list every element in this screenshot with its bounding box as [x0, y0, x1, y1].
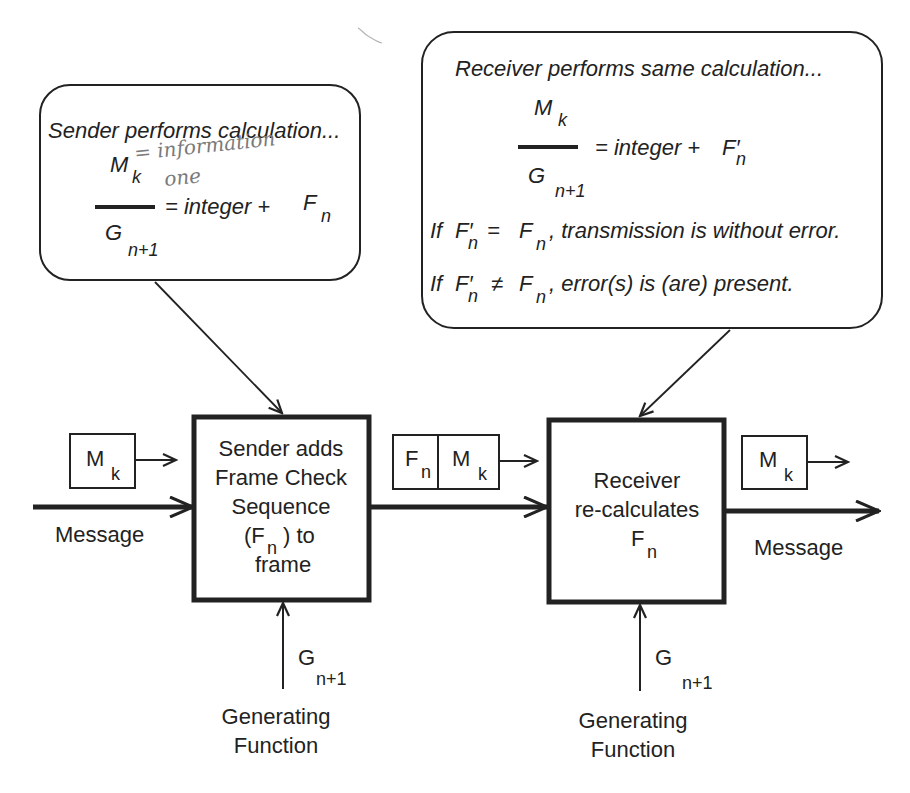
transmitted-fcs-label: F — [405, 446, 418, 471]
sender-box-line3: Sequence — [231, 494, 330, 519]
receiver-generator-label2: Function — [591, 737, 675, 762]
sender-box-line5: frame — [255, 552, 311, 577]
sender-box-line4-close: ) to — [283, 523, 315, 548]
rule1-rhs: F — [519, 218, 534, 243]
output-frame-sub: k — [784, 465, 794, 485]
equation-rhs: = integer + — [165, 194, 270, 219]
receiver-generator-symbol: G — [655, 645, 672, 670]
input-frame: M k — [70, 434, 176, 488]
sender-generator-sub: n+1 — [316, 669, 347, 689]
fcs-symbol: F — [303, 190, 318, 215]
fraction-denominator-sub: n+1 — [128, 240, 159, 260]
rule1-text: , transmission is without error. — [549, 218, 840, 243]
sender-callout: Sender performs calculation... = informa… — [40, 85, 360, 280]
sender-generator-label1: Generating — [222, 704, 331, 729]
rule2-op: ≠ — [491, 271, 503, 296]
transmitted-fcs-sub: n — [421, 462, 431, 482]
sender-callout-pointer — [155, 282, 282, 413]
fraction-denominator: G — [528, 163, 545, 188]
output-frame: M k — [742, 436, 848, 489]
input-message-label: Message — [55, 522, 144, 547]
sender-generator-symbol: G — [298, 645, 315, 670]
fcs-symbol-sub: n — [321, 206, 331, 226]
sender-box-line2: Frame Check — [215, 465, 348, 490]
sender-box-line4-open: (F — [244, 523, 265, 548]
fraction-numerator: M — [534, 95, 553, 120]
output-frame-label: M — [759, 447, 777, 472]
fcs-prime-sub: n — [736, 149, 746, 169]
sender-generator-label2: Function — [234, 733, 318, 758]
receiver-box: Receiver re-calculates F n — [549, 420, 724, 602]
rule1-op: = — [487, 218, 500, 243]
receiver-box-line1: Receiver — [594, 468, 681, 493]
rule1-lhs-sub: n — [468, 233, 478, 253]
rule2-rhs: F — [519, 271, 534, 296]
rule2-rhs-sub: n — [536, 287, 546, 307]
rule1-rhs-sub: n — [536, 234, 546, 254]
crc-diagram: Sender performs calculation... = informa… — [0, 0, 910, 793]
output-message-label: Message — [754, 535, 843, 560]
receiver-generator-sub: n+1 — [682, 673, 713, 693]
receiver-callout-title: Receiver performs same calculation... — [455, 56, 823, 81]
fraction-numerator-sub: k — [558, 110, 568, 130]
receiver-box-line2: re-calculates — [575, 497, 700, 522]
input-frame-sub: k — [111, 464, 121, 484]
transmitted-msg-sub: k — [478, 464, 488, 484]
sender-box: Sender adds Frame Check Sequence (F n ) … — [194, 417, 369, 600]
rule2-text: , error(s) is (are) present. — [549, 271, 794, 296]
sender-box-line1: Sender adds — [219, 436, 344, 461]
receiver-callout: Receiver performs same calculation... M … — [422, 32, 882, 328]
fraction-denominator-sub: n+1 — [555, 181, 586, 201]
fraction-denominator: G — [105, 220, 122, 245]
fraction-numerator: M — [110, 152, 129, 177]
transmitted-msg-label: M — [452, 446, 470, 471]
input-frame-label: M — [86, 446, 104, 471]
fraction-numerator-sub: k — [132, 167, 142, 187]
handwritten-note-2: one — [163, 163, 202, 191]
pencil-mark — [358, 28, 382, 43]
receiver-box-line3: F — [631, 526, 644, 551]
receiver-generator-label1: Generating — [579, 708, 688, 733]
equation-rhs: = integer + — [595, 135, 700, 160]
transmitted-frame: F n M k — [393, 435, 537, 489]
receiver-callout-pointer — [640, 330, 730, 416]
receiver-box-line3-sub: n — [647, 542, 657, 562]
rule2-lhs-sub: n — [468, 286, 478, 306]
